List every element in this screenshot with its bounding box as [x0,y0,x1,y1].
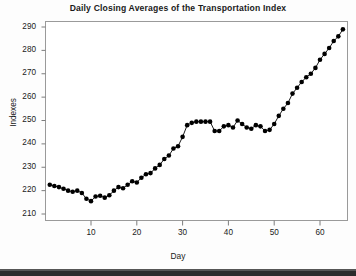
data-point [276,114,281,119]
data-point [322,52,327,57]
data-point [258,124,263,129]
data-point [80,191,85,196]
y-axis-tick-label: 260 [8,93,36,101]
data-point [139,175,144,180]
data-point [89,199,94,204]
data-point [84,197,89,202]
data-point [222,124,227,129]
data-point [162,157,167,162]
data-point [121,186,126,191]
data-point [318,57,323,62]
data-point [208,119,213,124]
data-point [263,129,268,134]
y-axis-tick-label: 240 [8,139,36,147]
data-point [226,123,231,128]
data-point [102,195,107,200]
data-point [203,119,208,124]
data-point [52,184,57,189]
data-point [341,27,346,32]
data-point [254,123,259,128]
data-point [327,46,332,51]
data-point [231,125,236,130]
data-point [272,122,277,127]
data-point [309,71,314,76]
data-point [75,188,80,193]
data-point [176,144,181,149]
data-point [116,185,121,190]
data-point [93,194,98,199]
data-point [295,85,300,90]
data-point [331,39,336,44]
x-axis-tick-label: 50 [259,229,289,237]
data-point [98,193,103,198]
data-point [267,128,272,133]
y-axis-tick-label: 220 [8,186,36,194]
data-point [286,101,291,106]
y-axis-ticks [42,27,46,214]
data-point [189,121,194,126]
data-point [125,182,130,187]
data-point [249,126,254,131]
data-point [240,122,245,127]
data-point [244,125,249,130]
data-point [157,163,162,168]
data-point [66,188,71,193]
data-point [144,172,149,177]
x-axis-tick-label: 30 [168,229,198,237]
data-point [212,129,217,134]
data-point [313,66,318,71]
data-point [70,189,75,194]
bottom-edge-band [0,269,356,276]
chart-title: Daily Closing Averages of the Transporta… [0,3,356,13]
data-point [180,135,185,140]
x-axis-ticks [91,221,320,226]
data-point [194,119,199,124]
data-point [107,193,112,198]
data-point [281,107,286,112]
data-point [235,118,240,123]
data-point [199,119,204,124]
data-point [148,171,153,176]
x-axis-tick-label: 60 [305,229,335,237]
y-axis-tick-label: 210 [8,210,36,218]
data-point [47,182,52,187]
y-axis-tick-label: 250 [8,116,36,124]
y-axis-tick-label: 280 [8,46,36,54]
data-point [112,188,117,193]
data-point [299,80,304,85]
data-point [217,129,222,134]
y-axis-tick-label: 270 [8,69,36,77]
data-point [61,186,66,191]
data-point [153,166,158,171]
data-point [167,153,172,158]
y-axis-tick-label: 230 [8,163,36,171]
chart-figure: Daily Closing Averages of the Transporta… [0,0,356,276]
data-point [130,179,135,184]
y-axis-tick-label: 290 [8,23,36,31]
data-point [135,180,140,185]
x-axis-tick-label: 20 [122,229,152,237]
x-axis-label: Day [0,251,356,261]
data-point [290,91,295,96]
data-point [185,123,190,128]
data-point [57,185,62,190]
data-point [304,75,309,80]
data-point [336,34,341,39]
x-axis-tick-label: 40 [213,229,243,237]
data-point [171,146,176,151]
x-axis-tick-label: 10 [76,229,106,237]
y-axis-label: Indexes [9,83,18,143]
